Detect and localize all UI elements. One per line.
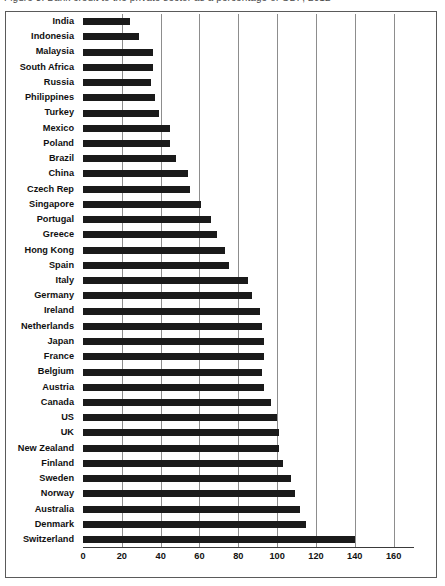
bar (83, 262, 229, 269)
bar (83, 49, 153, 56)
category-label: Czech Rep (6, 182, 78, 197)
bar (83, 490, 295, 497)
category-axis-labels: IndiaIndonesiaMalaysiaSouth AfricaRussia… (6, 14, 78, 547)
bar-row (83, 258, 413, 273)
bar (83, 338, 264, 345)
bar-row (83, 29, 413, 44)
x-axis-line (83, 547, 414, 548)
bar-row (83, 517, 413, 532)
bar (83, 140, 170, 147)
category-label: Australia (6, 502, 78, 517)
bar-row (83, 410, 413, 425)
category-label: Austria (6, 380, 78, 395)
bar-row (83, 288, 413, 303)
bar (83, 33, 139, 40)
bar (83, 384, 264, 391)
category-label: Mexico (6, 121, 78, 136)
bar-row (83, 151, 413, 166)
bar (83, 125, 170, 132)
bar (83, 506, 300, 513)
category-label: Russia (6, 75, 78, 90)
bar (83, 277, 248, 284)
x-tick-label: 20 (117, 551, 127, 561)
chart-frame: IndiaIndonesiaMalaysiaSouth AfricaRussia… (5, 11, 437, 578)
bar (83, 460, 283, 467)
bar (83, 64, 153, 71)
category-label: Malaysia (6, 44, 78, 59)
bar-row (83, 441, 413, 456)
category-label: Finland (6, 456, 78, 471)
x-tick-label: 100 (269, 551, 284, 561)
bar-row (83, 502, 413, 517)
category-label: Belgium (6, 364, 78, 379)
bar-row (83, 425, 413, 440)
bar (83, 247, 225, 254)
bar (83, 521, 306, 528)
category-label: UK (6, 425, 78, 440)
bar (83, 170, 188, 177)
category-label: Denmark (6, 517, 78, 532)
bar (83, 18, 130, 25)
bar (83, 110, 159, 117)
category-label: Norway (6, 486, 78, 501)
bar (83, 353, 264, 360)
bar (83, 369, 262, 376)
bar (83, 429, 279, 436)
bar-row (83, 364, 413, 379)
category-label: Germany (6, 288, 78, 303)
bar (83, 292, 252, 299)
category-label: Switzerland (6, 532, 78, 547)
bar-row (83, 105, 413, 120)
bar-row (83, 319, 413, 334)
bar (83, 445, 279, 452)
x-axis-tick-labels: 020406080100120140160 (83, 551, 413, 569)
category-label: China (6, 166, 78, 181)
category-label: Sweden (6, 471, 78, 486)
bar-row (83, 212, 413, 227)
bar (83, 323, 262, 330)
category-label: US (6, 410, 78, 425)
bar-row (83, 349, 413, 364)
bar (83, 186, 190, 193)
x-tick-label: 60 (194, 551, 204, 561)
bar-row (83, 334, 413, 349)
category-label: New Zealand (6, 441, 78, 456)
category-label: Canada (6, 395, 78, 410)
bar-row (83, 532, 413, 547)
category-label: Spain (6, 258, 78, 273)
category-label: Netherlands (6, 319, 78, 334)
category-label: Singapore (6, 197, 78, 212)
plot-area (83, 14, 413, 547)
x-tick-label: 160 (386, 551, 401, 561)
bar-row (83, 456, 413, 471)
category-label: Turkey (6, 105, 78, 120)
bar (83, 536, 355, 543)
category-label: Hong Kong (6, 243, 78, 258)
bar-row (83, 197, 413, 212)
bar-row (83, 243, 413, 258)
category-label: Poland (6, 136, 78, 151)
x-tick-label: 140 (347, 551, 362, 561)
x-tick-label: 80 (233, 551, 243, 561)
bar-row (83, 166, 413, 181)
category-label: France (6, 349, 78, 364)
chart-plot-wrapper: IndiaIndonesiaMalaysiaSouth AfricaRussia… (6, 12, 436, 577)
bar-row (83, 14, 413, 29)
category-label: Japan (6, 334, 78, 349)
bar (83, 155, 176, 162)
bar (83, 399, 271, 406)
bar (83, 231, 217, 238)
bar-row (83, 395, 413, 410)
bar-row (83, 227, 413, 242)
x-tick-label: 120 (308, 551, 323, 561)
bar (83, 216, 211, 223)
bar-row (83, 486, 413, 501)
category-label: Greece (6, 227, 78, 242)
bar (83, 79, 151, 86)
x-tick-label: 0 (80, 551, 85, 561)
chart-title-strip: Figure 3: Bank credit to the private sec… (0, 0, 445, 9)
bar-row (83, 75, 413, 90)
category-label: India (6, 14, 78, 29)
category-label: Portugal (6, 212, 78, 227)
bar-row (83, 121, 413, 136)
